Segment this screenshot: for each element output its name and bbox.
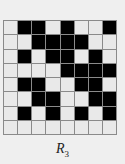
grid-cell-r1-c2	[32, 35, 45, 48]
grid-cell-r7-c7	[103, 121, 116, 134]
grid-cell-r4-c5	[75, 78, 88, 91]
grid-cell-r2-c4	[61, 50, 74, 63]
grid-cell-r1-c6	[89, 35, 102, 48]
grid-cell-r1-c3	[46, 35, 59, 48]
grid-cell-r3-c0	[4, 64, 17, 77]
grid-cell-r6-c1	[18, 107, 31, 120]
label-main: R	[56, 141, 65, 156]
grid-cell-r2-c1	[18, 50, 31, 63]
grid-cell-r7-c1	[18, 121, 31, 134]
grid-cell-r7-c3	[46, 121, 59, 134]
grid-cell-r0-c5	[75, 21, 88, 34]
grid-cell-r6-c3	[46, 107, 59, 120]
grid-cell-r2-c2	[32, 50, 45, 63]
grid-cell-r5-c4	[61, 92, 74, 105]
grid-cell-r4-c7	[103, 78, 116, 91]
grid-cell-r5-c3	[46, 92, 59, 105]
grid-cell-r4-c6	[89, 78, 102, 91]
grid-cell-r2-c3	[46, 50, 59, 63]
grid-cell-r3-c5	[75, 64, 88, 77]
figure-label: R3	[0, 141, 125, 159]
grid-cell-r5-c2	[32, 92, 45, 105]
label-subscript: 3	[65, 149, 70, 159]
grid-cell-r4-c1	[18, 78, 31, 91]
grid-cell-r6-c5	[75, 107, 88, 120]
binary-pattern-grid	[3, 20, 117, 135]
grid-cell-r1-c1	[18, 35, 31, 48]
grid-cell-r2-c6	[89, 50, 102, 63]
grid-cell-r6-c2	[32, 107, 45, 120]
grid-cell-r0-c1	[18, 21, 31, 34]
grid-cell-r2-c7	[103, 50, 116, 63]
grid-cell-r5-c7	[103, 92, 116, 105]
grid-cell-r5-c1	[18, 92, 31, 105]
grid-cell-r5-c0	[4, 92, 17, 105]
grid-cell-r2-c0	[4, 50, 17, 63]
grid-cell-r6-c7	[103, 107, 116, 120]
grid-cell-r0-c4	[61, 21, 74, 34]
grid-cell-r7-c2	[32, 121, 45, 134]
grid-cell-r4-c3	[46, 78, 59, 91]
grid-cell-r0-c7	[103, 21, 116, 34]
grid-cell-r4-c0	[4, 78, 17, 91]
grid-cell-r0-c6	[89, 21, 102, 34]
grid-cell-r0-c2	[32, 21, 45, 34]
grid-cell-r1-c7	[103, 35, 116, 48]
grid-cell-r4-c4	[61, 78, 74, 91]
grid-cell-r7-c5	[75, 121, 88, 134]
grid-cell-r7-c0	[4, 121, 17, 134]
grid-cell-r3-c6	[89, 64, 102, 77]
grid-cell-r3-c2	[32, 64, 45, 77]
grid-cell-r6-c6	[89, 107, 102, 120]
grid-cell-r3-c7	[103, 64, 116, 77]
grid-cell-r1-c0	[4, 35, 17, 48]
grid-cell-r5-c6	[89, 92, 102, 105]
grid-cell-r0-c3	[46, 21, 59, 34]
grid-cell-r6-c4	[61, 107, 74, 120]
grid-cell-r5-c5	[75, 92, 88, 105]
grid-cell-r1-c5	[75, 35, 88, 48]
grid-cell-r4-c2	[32, 78, 45, 91]
grid-cell-r7-c4	[61, 121, 74, 134]
grid-cell-r7-c6	[89, 121, 102, 134]
grid-cell-r0-c0	[4, 21, 17, 34]
grid-cell-r1-c4	[61, 35, 74, 48]
grid-cell-r2-c5	[75, 50, 88, 63]
grid-cell-r3-c1	[18, 64, 31, 77]
grid-cell-r6-c0	[4, 107, 17, 120]
grid-cell-r3-c3	[46, 64, 59, 77]
grid-cell-r3-c4	[61, 64, 74, 77]
